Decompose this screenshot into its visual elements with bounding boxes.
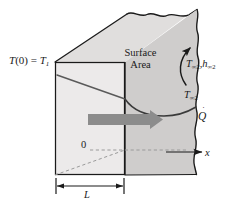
- label-conv-h-subscript: ∞2: [208, 63, 216, 70]
- label-T0-equals: =: [28, 54, 40, 66]
- label-surface-area-line1: Surface: [124, 47, 156, 58]
- label-heat-rate: ˙Q: [198, 110, 206, 122]
- heat-transfer-diagram: T(0) = T1 SurfaceArea T∞2,h∞2 T∞2 ˙Q 0 x…: [0, 0, 231, 211]
- label-T0-argument: (0): [15, 54, 28, 66]
- label-surface-area-line2: Area: [130, 59, 150, 70]
- label-left-surface-temperature: T(0) = T1: [9, 55, 49, 67]
- heat-rate-dot-accent: ˙: [202, 106, 205, 115]
- label-fluid-T-subscript: ∞2: [190, 94, 198, 101]
- label-x-axis: x: [205, 147, 210, 158]
- label-conv-T-subscript: ∞2: [192, 63, 200, 70]
- slab-schematic-svg: [0, 0, 231, 211]
- label-origin: 0: [81, 139, 86, 150]
- thickness-dimension-line: [56, 178, 124, 194]
- label-T0-subscript: 1: [46, 60, 49, 67]
- label-surface-area: SurfaceArea: [117, 47, 164, 72]
- label-thickness: L: [84, 189, 90, 200]
- label-fluid-temperature: T∞2: [184, 89, 198, 102]
- label-convection-properties: T∞2,h∞2: [186, 58, 216, 71]
